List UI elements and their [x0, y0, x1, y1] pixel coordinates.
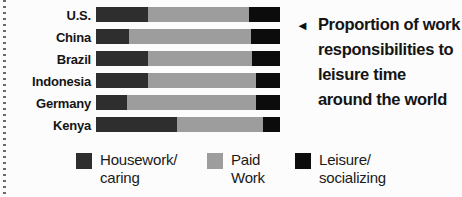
bar-segment-paid-work — [129, 29, 250, 44]
country-label: U.S. — [0, 6, 91, 23]
legend-label: Housework/caring — [100, 151, 177, 187]
chart-title-line: responsibilities to — [318, 37, 460, 62]
legend-label-line: caring — [100, 169, 177, 187]
chart-row: China — [0, 29, 280, 44]
bar-segment-paid-work — [148, 7, 249, 22]
chart-row: U.S. — [0, 7, 280, 22]
legend-item-paid-work: PaidWork — [207, 151, 265, 187]
work-leisure-chart-figure: U.S.ChinaBrazilIndonesiaGermanyKenya ◄ P… — [0, 0, 462, 197]
bar-segment-paid-work — [148, 51, 253, 66]
legend-label-line: Paid — [231, 151, 265, 169]
country-label: Indonesia — [0, 72, 91, 89]
bar-chart: U.S.ChinaBrazilIndonesiaGermanyKenya — [0, 7, 280, 139]
country-label: Kenya — [0, 116, 91, 133]
chart-title-line: Proportion of work — [318, 12, 460, 37]
bar-segment-housework-caring — [96, 51, 148, 66]
bar-segment-housework-caring — [96, 29, 129, 44]
bar-segment-leisure-socializing — [251, 29, 280, 44]
legend-label: PaidWork — [231, 151, 265, 187]
stacked-bar — [96, 73, 280, 88]
legend-swatch-icon — [295, 153, 311, 169]
stacked-bar — [96, 51, 280, 66]
country-label: Germany — [0, 94, 91, 111]
legend-item-leisure-socializing: Leisure/socializing — [295, 151, 386, 187]
bar-segment-leisure-socializing — [252, 51, 280, 66]
chart-annotation: ◄ Proportion of work responsibilities to… — [296, 12, 460, 112]
legend-label-line: Leisure/ — [319, 151, 386, 169]
legend-swatch-icon — [76, 153, 92, 169]
stacked-bar — [96, 117, 280, 132]
chart-title-line: around the world — [318, 87, 460, 112]
legend-item-housework-caring: Housework/caring — [76, 151, 177, 187]
legend-swatch-icon — [207, 153, 223, 169]
bar-segment-housework-caring — [96, 7, 148, 22]
chart-row: Kenya — [0, 117, 280, 132]
stacked-bar — [96, 7, 280, 22]
legend-label-line: Work — [231, 169, 265, 187]
bar-segment-housework-caring — [96, 95, 127, 110]
left-arrow-icon: ◄ — [296, 12, 309, 38]
country-label: China — [0, 28, 91, 45]
stacked-bar — [96, 29, 280, 44]
country-label: Brazil — [0, 50, 91, 67]
bar-segment-leisure-socializing — [263, 117, 280, 132]
legend-label: Leisure/socializing — [319, 151, 386, 187]
bar-segment-leisure-socializing — [256, 73, 280, 88]
chart-row: Germany — [0, 95, 280, 110]
bar-segment-housework-caring — [96, 73, 148, 88]
bar-segment-leisure-socializing — [256, 95, 280, 110]
chart-row: Brazil — [0, 51, 280, 66]
chart-title-line: leisure time — [318, 62, 460, 87]
bar-segment-paid-work — [127, 95, 256, 110]
legend-label-line: Housework/ — [100, 151, 177, 169]
bar-segment-housework-caring — [96, 117, 177, 132]
chart-title: Proportion of work responsibilities to l… — [318, 12, 460, 112]
chart-legend: Housework/caringPaidWorkLeisure/socializ… — [76, 151, 456, 193]
chart-row: Indonesia — [0, 73, 280, 88]
bar-segment-paid-work — [177, 117, 263, 132]
bar-segment-paid-work — [148, 73, 257, 88]
bar-segment-leisure-socializing — [249, 7, 280, 22]
stacked-bar — [96, 95, 280, 110]
legend-label-line: socializing — [319, 169, 386, 187]
